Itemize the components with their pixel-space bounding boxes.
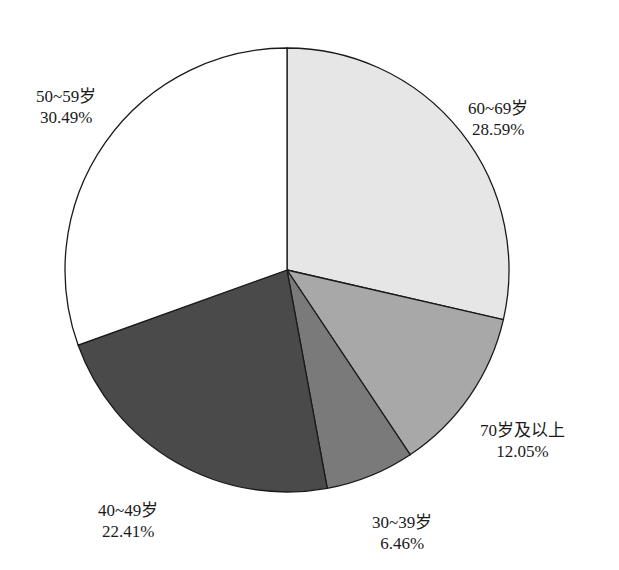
label-70-plus: 70岁及以上 12.05% bbox=[480, 420, 565, 462]
label-40-49-pct: 22.41% bbox=[98, 521, 158, 542]
label-40-49: 40~49岁 22.41% bbox=[98, 500, 158, 542]
label-50-59-name: 50~59岁 bbox=[36, 86, 96, 107]
label-30-39: 30~39岁 6.46% bbox=[372, 512, 432, 554]
label-60-69: 60~69岁 28.59% bbox=[468, 98, 528, 140]
label-50-59: 50~59岁 30.49% bbox=[36, 86, 96, 128]
label-60-69-name: 60~69岁 bbox=[468, 98, 528, 119]
label-40-49-name: 40~49岁 bbox=[98, 500, 158, 521]
label-70-plus-name: 70岁及以上 bbox=[480, 420, 565, 441]
label-60-69-pct: 28.59% bbox=[468, 119, 528, 140]
label-30-39-pct: 6.46% bbox=[372, 533, 432, 554]
label-50-59-pct: 30.49% bbox=[36, 107, 96, 128]
label-70-plus-pct: 12.05% bbox=[480, 441, 565, 462]
label-30-39-name: 30~39岁 bbox=[372, 512, 432, 533]
